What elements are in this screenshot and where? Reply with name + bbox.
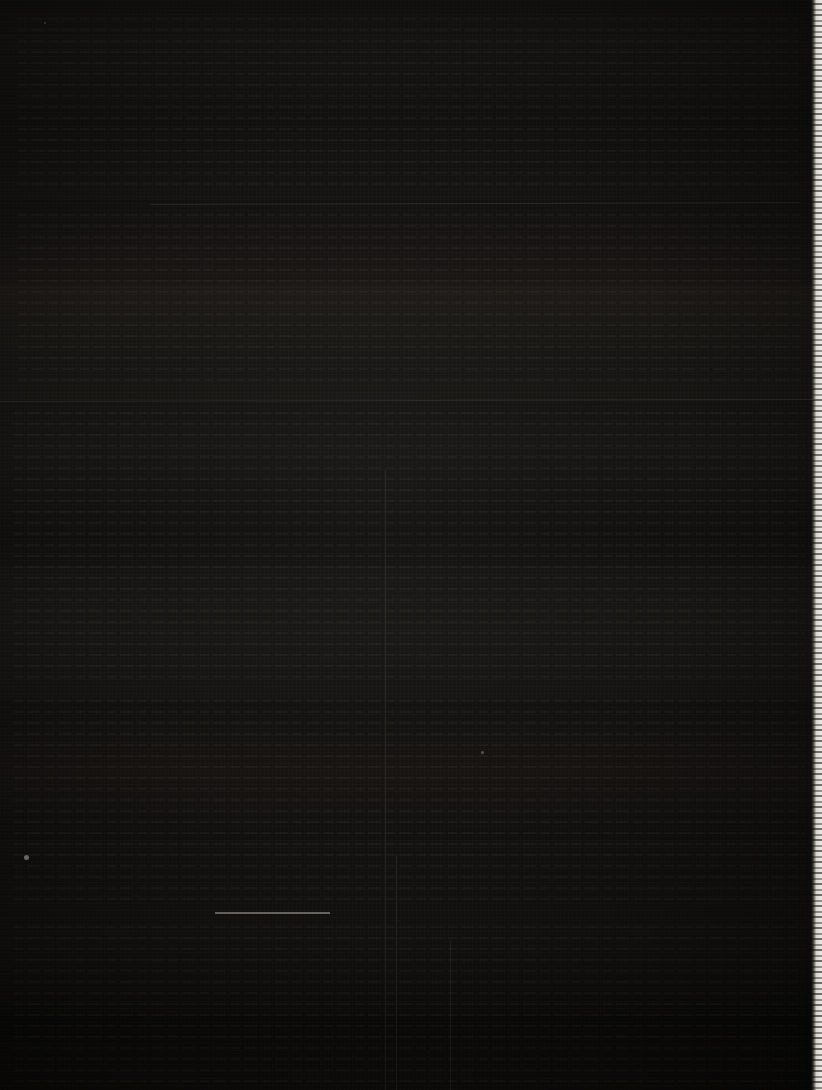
- page-background: [0, 0, 822, 1090]
- scanned-document-page: Severely underexposed scan of a document…: [0, 0, 822, 1090]
